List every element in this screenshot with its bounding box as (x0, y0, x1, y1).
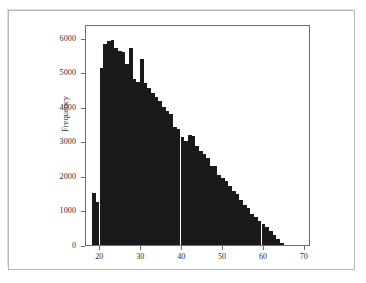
x-axis-tick-label: 50 (212, 252, 232, 261)
histogram-bars (86, 26, 309, 245)
y-axis-tick-label: 0 (72, 241, 76, 250)
x-axis-tick-label: 60 (253, 252, 273, 261)
y-axis-tick-label: 4000 (60, 103, 76, 112)
y-axis-tick-label: 3000 (60, 137, 76, 146)
x-axis-tick-label: 20 (89, 252, 109, 261)
plot-area-frame (85, 25, 310, 246)
histogram-bar (280, 243, 284, 245)
y-axis-tick-label: 1000 (60, 206, 76, 215)
x-axis-tick (99, 246, 100, 250)
x-axis-tick (263, 246, 264, 250)
x-axis-tick-label: 40 (171, 252, 191, 261)
figure-canvas: Frequency 0100020003000400050006000 2030… (0, 0, 366, 283)
y-axis-tick-label: 2000 (60, 172, 76, 181)
x-axis-tick-label: 70 (294, 252, 314, 261)
x-axis-tick (181, 246, 182, 250)
x-axis-tick (304, 246, 305, 250)
x-axis-tick-label: 30 (130, 252, 150, 261)
x-axis-tick (222, 246, 223, 250)
y-axis-tick-label: 5000 (60, 68, 76, 77)
y-axis-tick (81, 246, 85, 247)
x-axis-tick (140, 246, 141, 250)
y-axis-tick-label: 6000 (60, 34, 76, 43)
